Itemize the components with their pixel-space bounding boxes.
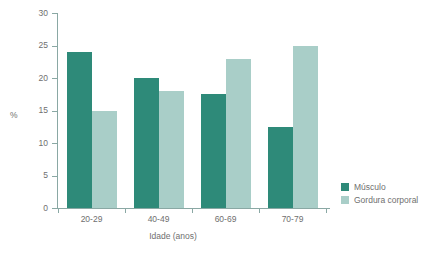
x-category-label-60-69: 60-69 — [196, 214, 256, 224]
bar-chart: % 051015202530 20-2940-4960-6970-79 Idad… — [0, 0, 428, 255]
y-tick-mark — [52, 78, 57, 79]
y-tick-mark — [52, 46, 57, 47]
y-tick-label: 20 — [18, 73, 48, 83]
bar-40-49-gordura — [159, 91, 184, 208]
x-tick-mark-origin — [58, 208, 59, 213]
legend-item-musculo[interactable]: Músculo — [341, 182, 418, 192]
bar-70-79-gordura — [293, 46, 318, 209]
legend-label: Gordura corporal — [354, 195, 418, 205]
x-category-label-20-29: 20-29 — [62, 214, 122, 224]
x-category-label-70-79: 70-79 — [263, 214, 323, 224]
y-tick-label: 15 — [18, 105, 48, 115]
x-tick-mark — [326, 208, 327, 213]
chart-legend: MúsculoGordura corporal — [341, 182, 418, 208]
x-axis-title: Idade (anos) — [0, 231, 428, 241]
legend-swatch-icon — [341, 183, 349, 191]
y-tick-label: 10 — [18, 138, 48, 148]
y-tick-mark — [52, 176, 57, 177]
x-tick-mark — [259, 208, 260, 213]
y-tick-label: 30 — [18, 8, 48, 18]
y-tick-label: 5 — [18, 170, 48, 180]
legend-swatch-icon — [341, 196, 349, 204]
bar-20-29-gordura — [92, 111, 117, 209]
y-tick-mark — [52, 143, 57, 144]
bar-60-69-gordura — [226, 59, 251, 209]
x-axis-line — [57, 208, 330, 209]
y-tick-label: 0 — [18, 203, 48, 213]
y-tick-label: 25 — [18, 40, 48, 50]
bar-40-49-musculo — [134, 78, 159, 208]
y-tick-mark — [52, 111, 57, 112]
legend-label: Músculo — [354, 182, 386, 192]
x-tick-mark — [125, 208, 126, 213]
bar-70-79-musculo — [268, 127, 293, 208]
y-tick-mark — [52, 208, 57, 209]
y-tick-mark — [52, 13, 57, 14]
bar-60-69-musculo — [201, 94, 226, 208]
x-axis-title-text: Idade (anos) — [149, 231, 197, 241]
bar-20-29-musculo — [67, 52, 92, 208]
plot-area — [58, 13, 326, 208]
x-category-label-40-49: 40-49 — [129, 214, 189, 224]
x-tick-mark — [192, 208, 193, 213]
y-axis-title: % — [10, 110, 18, 120]
legend-item-gordura-corporal[interactable]: Gordura corporal — [341, 195, 418, 205]
